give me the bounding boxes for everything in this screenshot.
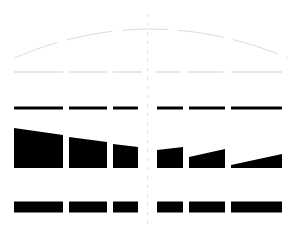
wedge-4	[157, 147, 183, 168]
wedge-3	[113, 144, 138, 168]
black-dash-segment-5	[189, 107, 225, 110]
black-bar-segment-4	[157, 202, 183, 213]
black-dash-segment-3	[113, 107, 138, 110]
light-dash-segment-1	[14, 71, 63, 73]
black-dash-segment-6	[231, 107, 282, 110]
wedge-2	[69, 137, 107, 168]
wedge-1	[14, 128, 63, 168]
diagram-canvas	[0, 0, 300, 236]
diagram-svg	[0, 0, 300, 236]
light-dash-segment-6	[231, 71, 282, 73]
black-bar-segment-6	[231, 202, 282, 213]
black-bar-segment-2	[69, 202, 107, 213]
light-dash-segment-3	[113, 71, 142, 73]
background-rect	[0, 0, 300, 236]
black-dash-segment-2	[69, 107, 107, 110]
black-bar-segment-3	[113, 202, 138, 213]
black-bar-segment-5	[189, 202, 225, 213]
light-dash-segment-2	[69, 71, 107, 73]
black-dash-segment-1	[14, 107, 63, 110]
light-dash-segment-5	[187, 71, 223, 73]
black-dash-segment-4	[157, 107, 183, 110]
light-dash-segment-4	[155, 71, 181, 73]
black-bar-segment-1	[14, 202, 63, 213]
